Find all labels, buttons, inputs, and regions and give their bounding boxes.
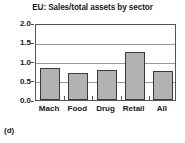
x-tick-label: Mach (35, 104, 63, 113)
y-tick-mark (31, 43, 34, 44)
y-tick-mark (31, 62, 34, 63)
y-tick-mark (31, 24, 34, 25)
x-tick-label: Food (63, 104, 91, 113)
y-tick-label: 2.0 (0, 20, 31, 28)
y-tick-label: 0.0 (0, 97, 31, 105)
x-tick-mark (92, 96, 93, 100)
y-axis: 0.00.51.01.52.0 (0, 24, 31, 101)
bar (153, 71, 173, 100)
x-tick-label: Retail (120, 104, 148, 113)
chart-title: EU: Sales/total assets by sector (0, 3, 185, 12)
x-tick-mark (121, 96, 122, 100)
x-tick-label: Drug (91, 104, 119, 113)
bar (40, 68, 60, 100)
y-tick-label: 1.5 (0, 39, 31, 47)
x-tick-mark (64, 96, 65, 100)
y-tick-mark (31, 81, 34, 82)
x-axis: MachFoodDrugRetailAll (35, 104, 176, 116)
y-tick-label: 0.5 (0, 78, 31, 86)
y-tick-label: 1.0 (0, 59, 31, 67)
x-tick-mark (149, 96, 150, 100)
bar (68, 73, 88, 100)
plot-area (35, 24, 176, 101)
bars-group (36, 25, 175, 100)
x-tick-label: All (148, 104, 176, 113)
bar (97, 70, 117, 100)
bar (125, 52, 145, 100)
panel-caption: (d) (4, 126, 14, 135)
figure-panel: EU: Sales/total assets by sector 0.00.51… (0, 0, 185, 143)
y-tick-mark (31, 101, 34, 102)
